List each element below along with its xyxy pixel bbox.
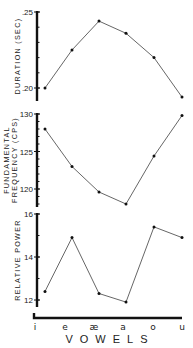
- panel-relative-power: 121416RELATIVE POWER: [13, 210, 184, 307]
- x-category-label: u: [179, 322, 185, 332]
- series-line: [45, 21, 182, 97]
- data-point: [181, 236, 184, 239]
- y-axis-title: RELATIVE POWER: [13, 219, 22, 301]
- x-category-label: e: [62, 322, 68, 332]
- y-tick-label: 12: [24, 296, 33, 305]
- x-category-label: i: [34, 322, 37, 332]
- x-category-label: a: [120, 322, 126, 332]
- data-point: [44, 290, 47, 293]
- series-line: [45, 227, 182, 302]
- vowel-measurements-chart: .20.25DURATION (SEC)120125130FUNDAMENTAL…: [0, 0, 193, 348]
- y-tick-label: .25: [22, 8, 34, 17]
- data-point: [125, 32, 128, 35]
- data-point: [71, 49, 74, 52]
- data-point: [153, 56, 156, 59]
- data-point: [125, 301, 128, 304]
- panels-layer: .20.25DURATION (SEC)120125130FUNDAMENTAL…: [2, 8, 184, 307]
- data-point: [153, 225, 156, 228]
- chart-canvas: .20.25DURATION (SEC)120125130FUNDAMENTAL…: [0, 0, 193, 348]
- x-axis-title: VOWELS: [65, 333, 154, 345]
- x-axis: ieæaou VOWELS: [34, 313, 185, 345]
- panel-fundamental-frequency: 120125130FUNDAMENTALFREQUENCY (CPS): [2, 110, 184, 207]
- x-category-label: o: [150, 322, 156, 332]
- x-axis-line: [34, 313, 182, 318]
- data-point: [153, 155, 156, 158]
- data-point: [98, 20, 101, 23]
- data-point: [44, 87, 47, 90]
- y-tick-label: 14: [24, 253, 33, 262]
- panel-duration: .20.25DURATION (SEC): [13, 8, 184, 101]
- data-point: [181, 114, 184, 117]
- y-axis-title: FREQUENCY (CPS): [10, 117, 19, 203]
- data-point: [71, 236, 74, 239]
- y-tick-label: 125: [20, 148, 34, 157]
- data-point: [125, 203, 128, 206]
- x-category-label: æ: [90, 322, 99, 332]
- data-point: [71, 165, 74, 168]
- y-tick-label: .20: [22, 84, 34, 93]
- y-tick-label: 16: [24, 210, 33, 219]
- series-line: [45, 116, 182, 205]
- y-tick-label: 130: [20, 110, 34, 119]
- data-point: [98, 292, 101, 295]
- data-point: [98, 191, 101, 194]
- data-point: [181, 96, 184, 99]
- y-axis-title: DURATION (SEC): [13, 18, 22, 95]
- x-category-labels: ieæaou: [34, 322, 185, 332]
- y-tick-label: 120: [20, 185, 34, 194]
- data-point: [44, 128, 47, 131]
